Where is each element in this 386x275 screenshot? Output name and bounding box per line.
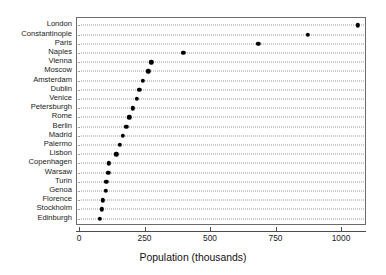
category-label: Edinburgh [0, 214, 72, 222]
data-point [149, 60, 153, 64]
data-point [97, 216, 101, 220]
category-axis-labels: LondonConstantinopleParisNaplesViennaMos… [0, 17, 72, 225]
data-point [118, 143, 122, 147]
row-guide-line [78, 108, 364, 109]
row-guide-line [78, 71, 364, 72]
row-guide-line [78, 191, 364, 192]
data-point [356, 23, 360, 27]
data-point [103, 189, 107, 193]
data-point [306, 32, 310, 36]
row-guide-line [78, 80, 364, 81]
category-label: Constantinople [0, 30, 72, 38]
row-guide-line [78, 98, 364, 99]
data-point [146, 69, 150, 73]
x-axis-tick [145, 227, 146, 231]
x-axis-tick [341, 227, 342, 231]
x-axis-tick-label: 0 [77, 234, 82, 243]
row-guide-line [78, 126, 364, 127]
x-axis-tick [210, 227, 211, 231]
category-label: Warsaw [0, 168, 72, 176]
category-label: Paris [0, 39, 72, 47]
data-point [135, 97, 139, 101]
data-point [124, 124, 128, 128]
data-point [141, 78, 145, 82]
row-guide-line [78, 34, 364, 35]
row-guide-line [78, 172, 364, 173]
data-point [106, 170, 110, 174]
category-label: Turin [0, 177, 72, 185]
row-guide-line [78, 52, 364, 53]
row-guide-line [78, 181, 364, 182]
category-label: Dublin [0, 85, 72, 93]
data-point [256, 42, 260, 46]
category-label: Berlin [0, 122, 72, 130]
data-point [101, 198, 105, 202]
row-guide-line [78, 43, 364, 44]
category-label: Lisbon [0, 149, 72, 157]
row-guide-line [78, 209, 364, 210]
data-point [107, 161, 111, 165]
category-label: Naples [0, 48, 72, 56]
data-point [100, 207, 104, 211]
data-point [114, 152, 118, 156]
data-point [137, 88, 141, 92]
category-label: Amsterdam [0, 76, 72, 84]
row-guide-line [78, 200, 364, 201]
category-label: Florence [0, 195, 72, 203]
category-label: Petersburgh [0, 103, 72, 111]
category-label: Rome [0, 112, 72, 120]
x-axis-tick-label: 750 [269, 234, 283, 243]
row-guide-line [78, 117, 364, 118]
row-guide-line [78, 62, 364, 63]
data-point [121, 134, 125, 138]
row-guide-line [78, 25, 364, 26]
row-guide-line [78, 163, 364, 164]
x-axis-tick-label: 250 [138, 234, 152, 243]
data-point [131, 106, 135, 110]
row-guide-line [78, 154, 364, 155]
category-label: Moscow [0, 66, 72, 74]
data-point [181, 51, 185, 55]
x-axis-tick [276, 227, 277, 231]
category-label: Vienna [0, 57, 72, 65]
x-axis-title: Population (thousands) [0, 252, 386, 264]
category-label: London [0, 20, 72, 28]
category-label: Madrid [0, 131, 72, 139]
x-axis-line [76, 231, 366, 232]
x-axis-tick-label: 500 [203, 234, 217, 243]
row-guide-line [78, 218, 364, 219]
row-guide-line [78, 89, 364, 90]
x-axis-tick [79, 227, 80, 231]
category-label: Genoa [0, 186, 72, 194]
dot-plot-chart: LondonConstantinopleParisNaplesViennaMos… [0, 0, 386, 275]
category-label: Stockholm [0, 204, 72, 212]
category-label: Venice [0, 94, 72, 102]
category-label: Copenhagen [0, 158, 72, 166]
category-label: Palermo [0, 140, 72, 148]
plot-area [76, 17, 366, 225]
data-point [104, 180, 108, 184]
data-point [127, 115, 131, 119]
x-axis-tick-label: 1000 [332, 234, 351, 243]
